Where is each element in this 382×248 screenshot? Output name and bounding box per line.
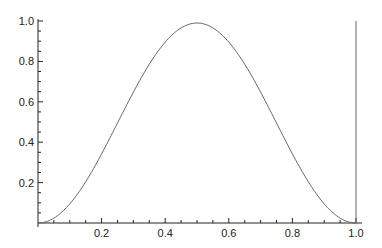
y-tick-label: 0.2	[19, 177, 34, 189]
y-tick-label: 0.4	[19, 136, 34, 148]
x-tick-label: 0.8	[285, 227, 300, 239]
x-tick-label: 0.6	[221, 227, 236, 239]
y-tick-label: 0.8	[19, 55, 34, 67]
tick-labels: 0.20.40.60.81.00.20.40.60.81.0	[19, 15, 364, 239]
x-tick-label: 1.0	[348, 227, 363, 239]
y-tick-label: 0.6	[19, 96, 34, 108]
x-tick-label: 0.4	[158, 227, 173, 239]
x-tick-label: 0.2	[94, 227, 109, 239]
axes	[38, 19, 362, 227]
data-curve	[38, 23, 356, 223]
y-tick-label: 1.0	[19, 15, 34, 27]
chart: 0.20.40.60.81.00.20.40.60.81.0	[0, 0, 382, 248]
ticks	[38, 21, 356, 223]
